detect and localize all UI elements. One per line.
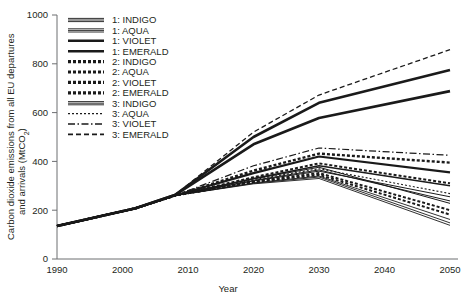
chart-background: [0, 0, 466, 300]
legend-label: 3: VIOLET: [112, 118, 157, 129]
y-tick-label: 800: [32, 58, 48, 69]
legend-label: 2: EMERALD: [112, 87, 169, 98]
legend-label: 2: INDIGO: [112, 56, 156, 67]
legend-label: 1: INDIGO: [112, 14, 156, 25]
y-tick-label: 200: [32, 205, 48, 216]
legend-label: 3: EMERALD: [112, 129, 169, 140]
legend-label: 2: AQUA: [112, 66, 150, 77]
y-axis-title-line1: Carbon dioxide emissions from all EU dep…: [5, 33, 16, 240]
legend-label: 3: AQUA: [112, 108, 150, 119]
y-tick-label: 400: [32, 156, 48, 167]
x-tick-label: 1990: [46, 264, 67, 275]
x-axis-title: Year: [218, 283, 237, 294]
legend-label: 1: VIOLET: [112, 35, 157, 46]
legend-label: 1: AQUA: [112, 25, 150, 36]
y-tick-label: 600: [32, 107, 48, 118]
legend-label: 1: EMERALD: [112, 46, 169, 57]
y-axis-title-line2-text: and arrivals (MtCO: [16, 135, 27, 215]
legend-label: 2: VIOLET: [112, 77, 157, 88]
y-axis-title-paren: ): [16, 128, 27, 131]
emissions-line-chart: 02004006008001000 1990200020102020203020…: [0, 0, 466, 300]
y-tick-label: 0: [43, 253, 48, 264]
chart-container: 02004006008001000 1990200020102020203020…: [0, 0, 466, 300]
x-tick-label: 2030: [308, 264, 329, 275]
x-tick-label: 2040: [374, 264, 395, 275]
x-tick-label: 2010: [177, 264, 198, 275]
x-tick-label: 2020: [243, 264, 264, 275]
y-tick-label: 1000: [27, 9, 48, 20]
legend-label: 3: INDIGO: [112, 98, 156, 109]
x-tick-label: 2000: [112, 264, 133, 275]
x-tick-label: 2050: [439, 264, 460, 275]
